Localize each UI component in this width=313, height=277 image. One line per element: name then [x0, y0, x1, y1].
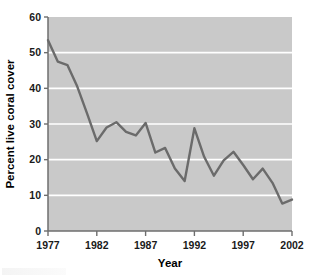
y-tick-label-50: 50: [29, 46, 41, 58]
y-axis-title: Percent live coral cover: [4, 59, 16, 189]
x-tick-label-1982: 1982: [85, 239, 109, 251]
x-tick-label-1987: 1987: [134, 239, 158, 251]
x-tick-label-1977: 1977: [36, 239, 60, 251]
x-axis-title: Year: [158, 257, 183, 269]
x-tick-label-2002: 2002: [280, 239, 304, 251]
y-tick-label-30: 30: [29, 118, 41, 130]
y-tick-label-20: 20: [29, 153, 41, 165]
x-tick-label-1992: 1992: [183, 239, 207, 251]
x-tick-label-1997: 1997: [232, 239, 256, 251]
y-tick-label-40: 40: [29, 82, 41, 94]
coral-cover-line-chart: 0102030405060 197719821987199219972002 P…: [0, 0, 313, 277]
y-tick-label-60: 60: [29, 11, 41, 23]
y-tick-label-0: 0: [35, 225, 41, 237]
page-edge-artifact: [2, 268, 66, 275]
y-tick-label-10: 10: [29, 189, 41, 201]
